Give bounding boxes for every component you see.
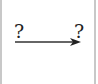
right-arrow-icon <box>0 0 98 84</box>
